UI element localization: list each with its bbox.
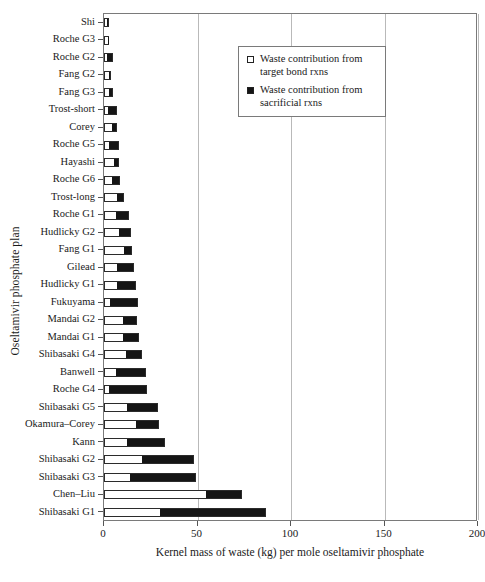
bar-segment-sacrificial <box>160 509 265 516</box>
stacked-bar <box>104 490 242 499</box>
bar-row <box>104 154 119 171</box>
bar-segment-target-bond <box>105 404 127 411</box>
bar-row <box>104 84 113 101</box>
x-axis-tick <box>103 521 104 526</box>
bar-segment-sacrificial <box>112 124 116 131</box>
bar-segment-sacrificial <box>112 177 119 184</box>
y-axis-tick-label: Corey <box>69 118 95 135</box>
bar-segment-sacrificial <box>124 247 131 254</box>
bar-row <box>104 14 109 31</box>
bar-segment-target-bond <box>105 177 112 184</box>
bar-segment-target-bond <box>105 456 142 463</box>
bar-segment-sacrificial <box>136 421 158 428</box>
y-axis-tick-label: Shi <box>81 13 95 30</box>
stacked-bar <box>104 350 142 359</box>
bar-segment-sacrificial <box>123 334 138 341</box>
bar-segment-sacrificial <box>109 72 110 79</box>
bar-segment-target-bond <box>105 194 117 201</box>
bar-segment-target-bond <box>105 474 130 481</box>
stacked-bar <box>104 455 194 464</box>
stacked-bar <box>104 106 117 115</box>
bar-segment-sacrificial <box>114 159 118 166</box>
y-axis-tick-label: Roche G3 <box>53 30 95 47</box>
stacked-bar <box>104 211 129 220</box>
filled-square-icon <box>247 87 254 94</box>
y-axis-tick-label: Fang G3 <box>59 83 95 100</box>
bar-row <box>104 451 194 468</box>
bar-segment-sacrificial <box>127 439 163 446</box>
bar-row <box>104 206 129 223</box>
stacked-bar <box>104 36 109 45</box>
bar-segment-target-bond <box>105 369 116 376</box>
stacked-bar <box>104 473 196 482</box>
y-axis-tick-label: Trost-long <box>51 188 95 205</box>
stacked-bar <box>104 158 119 167</box>
y-axis-tick-labels: ShiRoche G3Roche G2Fang G2Fang G3Trost-s… <box>0 13 103 521</box>
stacked-bar <box>104 385 147 394</box>
stacked-bar <box>104 420 159 429</box>
x-axis-tick <box>384 521 385 526</box>
y-axis-tick-label: Fukuyama <box>51 293 95 310</box>
bar-row <box>104 486 242 503</box>
bar-row <box>104 346 142 363</box>
x-axis-tick <box>290 521 291 526</box>
bar-segment-target-bond <box>105 491 206 498</box>
stacked-bar <box>104 403 158 412</box>
y-axis-tick-label: Kann <box>72 433 95 450</box>
y-axis-tick-label: Shibasaki G4 <box>39 345 95 362</box>
bar-row <box>104 224 131 241</box>
y-axis-tick-label: Okamura–Corey <box>25 415 95 432</box>
bar-segment-sacrificial <box>108 37 109 44</box>
gridline <box>478 14 479 520</box>
x-axis-tick-label: 50 <box>191 527 202 539</box>
bar-segment-sacrificial <box>109 386 145 393</box>
bar-row <box>104 241 132 258</box>
bar-segment-target-bond <box>105 421 136 428</box>
bar-segment-sacrificial <box>107 54 111 61</box>
y-axis-tick-label: Chen–Liu <box>53 485 95 502</box>
stacked-bar <box>104 53 113 62</box>
y-axis-tick-label: Banwell <box>60 363 95 380</box>
bar-segment-sacrificial <box>109 142 118 149</box>
stacked-bar <box>104 18 109 27</box>
bar-segment-sacrificial <box>117 194 123 201</box>
stacked-bar <box>104 228 131 237</box>
bar-row <box>104 434 165 451</box>
bar-segment-target-bond <box>105 264 117 271</box>
bar-segment-target-bond <box>105 317 123 324</box>
x-axis-tick-label: 100 <box>282 527 299 539</box>
stacked-bar <box>104 281 136 290</box>
x-axis-tick-labels: 050100150200 <box>0 527 481 543</box>
y-axis-tick-label: Fang G1 <box>59 240 95 257</box>
stacked-bar <box>104 333 139 342</box>
bar-row <box>104 381 147 398</box>
x-axis-tick-label: 200 <box>469 527 485 539</box>
bar-segment-sacrificial <box>116 369 145 376</box>
bar-row <box>104 399 158 416</box>
bar-row <box>104 311 137 328</box>
stacked-bar <box>104 246 132 255</box>
bar-segment-sacrificial <box>109 89 112 96</box>
bar-row <box>104 504 266 521</box>
bar-row <box>104 469 196 486</box>
bar-segment-sacrificial <box>127 404 158 411</box>
y-axis-tick-label: Mandai G1 <box>47 328 95 345</box>
bar-segment-sacrificial <box>126 351 141 358</box>
x-axis-tick-label: 0 <box>100 527 106 539</box>
stacked-bar <box>104 71 111 80</box>
bar-segment-target-bond <box>105 212 116 219</box>
bar-row <box>104 294 138 311</box>
stacked-bar <box>104 88 113 97</box>
y-axis-tick-label: Roche G1 <box>53 205 95 222</box>
bar-row <box>104 189 124 206</box>
bar-segment-target-bond <box>105 439 127 446</box>
x-axis-tick <box>477 521 478 526</box>
stacked-bar <box>104 141 119 150</box>
bar-row <box>104 119 117 136</box>
stacked-bar <box>104 123 117 132</box>
legend-label-target-bond: Waste contribution from target bond rxns <box>260 53 362 78</box>
legend-label-sacrificial: Waste contribution from sacrificial rxns <box>260 84 362 109</box>
bar-segment-sacrificial <box>119 229 130 236</box>
bar-row <box>104 364 146 381</box>
legend-item-target-bond: Waste contribution from target bond rxns <box>247 53 377 78</box>
